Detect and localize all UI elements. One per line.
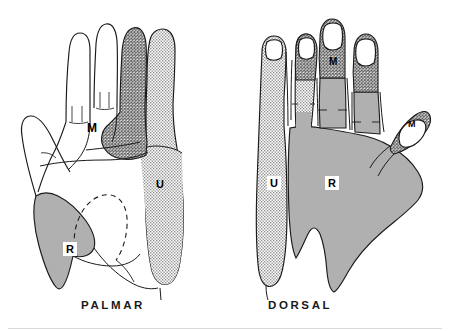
label-palmar-median: M [87, 122, 97, 134]
palmar-view [21, 24, 183, 300]
nerve-distribution-figure: PALMAR DORSAL M U R U R M M [0, 0, 450, 331]
palmar-radial-region [34, 193, 95, 289]
dorsal-middle-nail [323, 23, 343, 50]
label-dorsal-median-finger: M [329, 57, 337, 67]
palmar-middle-finger-outline [94, 24, 117, 108]
caption-palmar: PALMAR [81, 299, 145, 311]
palmar-thumb-outline [21, 116, 70, 196]
label-palmar-radial: R [63, 242, 77, 256]
dorsal-view [256, 19, 430, 300]
dorsal-little-nail [266, 40, 283, 61]
label-dorsal-radial: R [325, 176, 339, 190]
label-palmar-ulnar: U [156, 179, 164, 190]
dorsal-index-nail [356, 39, 376, 66]
palmar-index-finger-outline [66, 33, 90, 122]
dorsal-ring-nail [299, 38, 315, 60]
hand-diagram-svg [0, 0, 450, 331]
label-dorsal-ulnar: U [267, 176, 281, 190]
palmar-median-region [102, 28, 147, 160]
caption-dorsal: DORSAL [268, 299, 332, 311]
label-dorsal-median-thumb: M [408, 120, 416, 129]
bottom-rule [8, 328, 442, 329]
